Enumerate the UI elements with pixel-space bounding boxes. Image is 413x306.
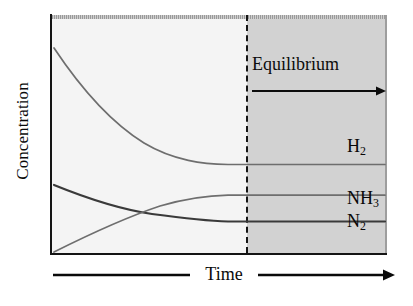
series-label-n2-formula: N bbox=[347, 211, 360, 231]
curve-n2 bbox=[54, 185, 385, 222]
y-axis-title-text: Concentration bbox=[13, 82, 33, 180]
series-label-n2: N2 bbox=[347, 212, 366, 233]
series-label-h2-subscript: 2 bbox=[360, 144, 366, 158]
x-axis-title: Time bbox=[193, 264, 255, 285]
x-axis-line bbox=[50, 253, 387, 255]
equilibrium-concentration-diagram: Concentration Equilibrium H2 NH3 N2 bbox=[0, 0, 413, 306]
x-axis-annotation: Time bbox=[50, 264, 395, 294]
y-axis-title: Concentration bbox=[0, 0, 46, 262]
plot-right-border bbox=[385, 15, 387, 253]
equilibrium-annotation: Equilibrium bbox=[252, 55, 388, 74]
series-label-h2: H2 bbox=[347, 137, 366, 158]
series-label-nh3: NH3 bbox=[347, 189, 379, 210]
series-label-nh3-subscript: 3 bbox=[373, 196, 379, 210]
series-label-n2-subscript: 2 bbox=[360, 219, 366, 233]
equilibrium-arrow-icon bbox=[252, 86, 386, 96]
series-label-h2-formula: H bbox=[347, 136, 360, 156]
equilibrium-label: Equilibrium bbox=[252, 55, 388, 74]
series-label-nh3-formula: NH bbox=[347, 188, 373, 208]
